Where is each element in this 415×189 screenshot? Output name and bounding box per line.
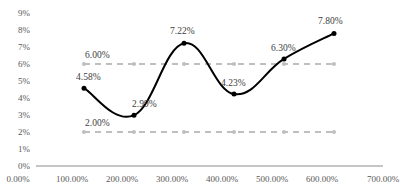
data-point [182, 41, 187, 46]
data-label: 6.30% [271, 43, 296, 53]
limit-marker [132, 62, 136, 66]
limit-marker [82, 130, 86, 134]
y-tick-label: 0% [18, 161, 31, 171]
limit-marker [332, 130, 336, 134]
y-tick-label: 8% [18, 25, 31, 35]
main-series-markers [82, 31, 337, 118]
x-tick-label: 500.00% [256, 174, 289, 184]
data-point [282, 56, 287, 61]
x-tick-label: 400.00% [206, 174, 239, 184]
limit-marker [282, 62, 286, 66]
limit-marker [82, 62, 86, 66]
x-tick-label: 100.00% [56, 174, 89, 184]
y-tick-label: 7% [18, 42, 31, 52]
limit-lines [82, 62, 336, 134]
data-point [132, 113, 137, 118]
x-tick-label: 700.00% [367, 174, 400, 184]
y-tick-label: 6% [18, 59, 31, 69]
data-point [332, 31, 337, 36]
data-point [232, 92, 237, 97]
limit-marker [182, 130, 186, 134]
y-tick-label: 4% [18, 93, 31, 103]
limit-marker [182, 62, 186, 66]
y-tick-label: 5% [18, 76, 31, 86]
y-tick-label: 2% [18, 127, 31, 137]
main-series-line [84, 33, 334, 116]
data-label: 7.22% [170, 26, 195, 36]
limit-marker [232, 62, 236, 66]
limit-marker [232, 130, 236, 134]
line-chart: 0%1%2%3%4%5%6%7%8%9% 0.00%100.00%200.00%… [0, 0, 415, 189]
x-tick-label: 0.00% [6, 174, 30, 184]
data-labels: 6.00%2.00%4.58%2.99%7.22%4.23%6.30%7.80% [76, 16, 343, 128]
limit-marker [132, 130, 136, 134]
x-tick-label: 200.00% [106, 174, 139, 184]
data-label: 4.23% [221, 78, 246, 88]
y-tick-label: 9% [18, 8, 31, 18]
y-tick-label: 1% [18, 144, 31, 154]
limit-marker [332, 62, 336, 66]
y-axis-ticks: 0%1%2%3%4%5%6%7%8%9% [18, 8, 31, 171]
limit-label: 2.00% [85, 118, 110, 128]
limit-label: 6.00% [85, 50, 110, 60]
x-tick-label: 600.00% [306, 174, 339, 184]
data-label: 4.58% [76, 72, 101, 82]
data-point [82, 86, 87, 91]
limit-marker [282, 130, 286, 134]
y-tick-label: 3% [18, 110, 31, 120]
data-label: 7.80% [318, 16, 343, 26]
data-label: 2.99% [132, 99, 157, 109]
x-tick-label: 300.00% [156, 174, 189, 184]
x-axis-ticks: 0.00%100.00%200.00%300.00%400.00%500.00%… [6, 174, 399, 184]
